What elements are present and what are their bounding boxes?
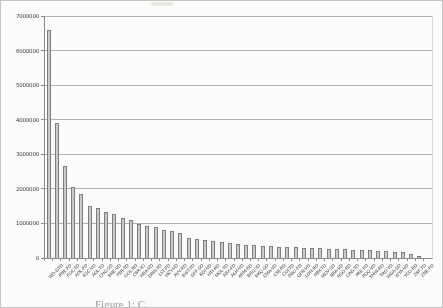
bar (277, 247, 281, 258)
bar (343, 249, 347, 258)
y-tick-label: 5000000 (16, 82, 39, 88)
x-tick-mark (316, 258, 317, 261)
bar (137, 224, 141, 258)
bar (96, 208, 100, 258)
bar (302, 248, 306, 258)
x-tick-mark (192, 258, 193, 261)
x-tick-mark (250, 258, 251, 261)
x-tick-mark (209, 258, 210, 261)
x-tick-mark (176, 258, 177, 261)
x-tick-mark (60, 258, 61, 261)
bar (145, 226, 149, 258)
x-tick-mark (299, 258, 300, 261)
y-tick-label: 6000000 (16, 48, 39, 54)
y-tick-label: 7000000 (16, 13, 39, 19)
x-tick-mark (93, 258, 94, 261)
x-tick-mark (102, 258, 103, 261)
y-tick-label: 4000000 (16, 117, 39, 123)
bar (376, 251, 380, 258)
bar (252, 245, 256, 258)
bar (351, 250, 355, 258)
bar (269, 246, 273, 258)
x-tick-mark (168, 258, 169, 261)
gridline (45, 119, 432, 120)
bar (228, 243, 232, 258)
bar (310, 248, 314, 258)
x-tick-mark (184, 258, 185, 261)
gridline (45, 154, 432, 155)
bar (121, 218, 125, 258)
bar (154, 227, 158, 258)
x-tick-mark (349, 258, 350, 261)
bar (417, 256, 421, 258)
bar (63, 166, 67, 258)
bar (220, 242, 224, 258)
x-tick-mark (135, 258, 136, 261)
x-tick-mark (69, 258, 70, 261)
bar (261, 246, 265, 258)
x-tick-mark (275, 258, 276, 261)
x-tick-mark (374, 258, 375, 261)
bar (244, 245, 248, 258)
bar (327, 249, 331, 258)
x-tick-mark (332, 258, 333, 261)
bar (104, 212, 108, 258)
x-tick-mark (44, 258, 45, 261)
x-tick-mark (52, 258, 53, 261)
y-axis: 7000000600000050000004000000300000020000… (1, 16, 44, 258)
bar (88, 206, 92, 258)
x-tick-mark (390, 258, 391, 261)
bar (318, 248, 322, 258)
x-tick-mark (365, 258, 366, 261)
x-tick-mark (159, 258, 160, 261)
bar (55, 123, 59, 258)
gridline (45, 85, 432, 86)
bar (335, 249, 339, 258)
x-tick-mark (151, 258, 152, 261)
x-tick-mark (291, 258, 292, 261)
bar (294, 247, 298, 258)
bar (401, 252, 405, 258)
bar (112, 214, 116, 258)
bar (236, 244, 240, 258)
bar (409, 254, 413, 258)
bar (187, 238, 191, 258)
x-tick-mark (283, 258, 284, 261)
bar (178, 233, 182, 258)
figure-caption: Figure 1: C (95, 298, 145, 308)
gridline (45, 223, 432, 224)
x-tick-mark (225, 258, 226, 261)
x-tick-mark (201, 258, 202, 261)
bar (368, 250, 372, 258)
x-tick-mark (308, 258, 309, 261)
bar (360, 250, 364, 258)
gridline (45, 50, 432, 51)
bar (79, 194, 83, 258)
x-tick-mark (217, 258, 218, 261)
x-tick-mark (242, 258, 243, 261)
bar (47, 30, 51, 258)
document-page: 7000000600000050000004000000300000020000… (0, 0, 443, 308)
gridline (45, 16, 432, 17)
bar (195, 239, 199, 258)
bar (393, 252, 397, 258)
x-tick-mark (266, 258, 267, 261)
x-tick-mark (258, 258, 259, 261)
x-tick-mark (77, 258, 78, 261)
x-tick-mark (415, 258, 416, 261)
y-tick-label: 3000000 (16, 151, 39, 157)
x-tick-mark (324, 258, 325, 261)
bar (211, 241, 215, 258)
x-tick-mark (407, 258, 408, 261)
bar (170, 231, 174, 258)
x-tick-mark (357, 258, 358, 261)
y-tick-label: 2000000 (16, 186, 39, 192)
x-tick-mark (398, 258, 399, 261)
x-tick-mark (234, 258, 235, 261)
bar (129, 220, 133, 258)
x-tick-mark (341, 258, 342, 261)
bar (384, 251, 388, 258)
plot-area (44, 16, 433, 259)
y-tick-label: 0 (36, 255, 39, 261)
gridline (45, 188, 432, 189)
